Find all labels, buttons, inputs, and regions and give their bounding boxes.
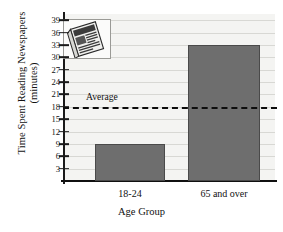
y-axis-tick — [59, 118, 69, 120]
y-axis-tick — [59, 69, 69, 71]
y-axis-tick — [59, 143, 69, 145]
average-line — [63, 107, 277, 109]
bar-chart: Time Spent Reading Newspapers (minutes) … — [0, 0, 283, 232]
y-axis-tick — [59, 81, 69, 83]
y-axis-tick — [59, 155, 69, 157]
y-axis-tick — [59, 44, 69, 46]
x-axis-title: Age Group — [0, 206, 283, 217]
x-axis-category-label: 18-24 — [95, 188, 165, 199]
x-axis-category-label: 65 and over — [188, 188, 260, 199]
y-axis-tick — [59, 106, 69, 108]
y-axis-tick — [59, 56, 69, 58]
newspaper-image-frame — [63, 19, 111, 59]
bar — [188, 45, 260, 181]
y-axis-tick — [59, 131, 69, 133]
average-label: Average — [86, 91, 118, 102]
y-axis-tick — [59, 94, 69, 96]
y-axis-tick — [59, 32, 69, 34]
y-axis-tick — [59, 168, 69, 170]
y-axis-tick-labels: 36912151821242730333639 — [38, 14, 60, 180]
y-axis-title-line1: Time Spent Reading Newspapers — [16, 12, 28, 155]
y-axis-tick — [59, 19, 69, 21]
newspaper-icon — [64, 20, 110, 58]
bar — [95, 144, 165, 181]
